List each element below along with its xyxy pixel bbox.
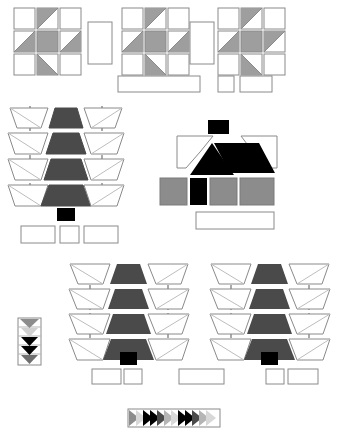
tile-cell[interactable] [168,8,189,29]
house-body-block [240,178,274,205]
trapezoid-row[interactable] [69,289,189,309]
grid-left[interactable] [14,8,81,75]
tile-cell[interactable] [264,54,285,75]
grid-middle[interactable] [122,8,189,75]
tile-cell[interactable] [241,54,262,75]
separator-box[interactable] [190,22,214,64]
trapezoid-center [46,133,86,154]
trapezoid-center [41,185,91,206]
tile-cell[interactable] [218,8,239,29]
tile-cell[interactable] [241,31,262,52]
caption-box[interactable] [124,369,142,384]
tile-cell[interactable] [37,54,58,75]
trapezoid-center [49,108,83,128]
trapezoid-row[interactable] [70,264,188,284]
caption-box[interactable] [218,76,234,92]
tile-cell[interactable] [264,31,285,52]
tile-cell[interactable] [168,54,189,75]
trapezoid-center [44,159,88,180]
tile-cell[interactable] [218,31,239,52]
tile-cell[interactable] [122,8,143,29]
trapezoid-row[interactable] [8,133,124,154]
caption-box[interactable] [288,369,318,384]
house-chimney [208,120,229,134]
tile-cell[interactable] [145,8,166,29]
trapezoid-row[interactable] [210,289,330,309]
figure-svg [0,0,345,439]
tile-cell[interactable] [37,31,58,52]
caption-box[interactable] [21,226,55,243]
trapezoid-row[interactable] [10,108,122,128]
arrow-strip[interactable] [128,409,220,427]
tile-cell[interactable] [60,31,81,52]
tile-cell[interactable] [122,31,143,52]
caption-box[interactable] [179,369,224,384]
caption-box[interactable] [240,76,272,92]
caption-box[interactable] [92,369,121,384]
black-base-marker[interactable] [57,208,75,221]
tile-cell[interactable] [145,31,166,52]
black-base-marker[interactable] [261,352,278,365]
tile-cell[interactable] [60,54,81,75]
trapezoid-row[interactable] [210,314,330,334]
tile-cell[interactable] [218,54,239,75]
tile-cell[interactable] [241,8,262,29]
chevron-legend[interactable] [18,318,41,365]
grid-right[interactable] [218,8,285,75]
caption-box[interactable] [60,226,79,243]
caption-box[interactable] [266,369,284,384]
separator-box[interactable] [88,22,112,64]
tile-cell[interactable] [14,31,35,52]
caption-box[interactable] [84,226,118,243]
tile-cell[interactable] [145,54,166,75]
figure-canvas [0,0,345,439]
tile-cell[interactable] [122,54,143,75]
house-body-block [160,178,187,205]
tile-cell[interactable] [37,8,58,29]
trapezoid-row[interactable] [8,159,124,180]
trapezoid-row[interactable] [69,314,189,334]
tile-cell[interactable] [14,54,35,75]
caption-box[interactable] [118,76,200,92]
tile-cell[interactable] [264,8,285,29]
house-door [190,178,207,205]
tile-cell[interactable] [60,8,81,29]
caption-box[interactable] [196,212,274,229]
trapezoid-row[interactable] [8,185,124,206]
black-base-marker[interactable] [120,352,137,365]
house-body-block [210,178,237,205]
tile-cell[interactable] [168,31,189,52]
tile-cell[interactable] [14,8,35,29]
trapezoid-row[interactable] [211,264,329,284]
